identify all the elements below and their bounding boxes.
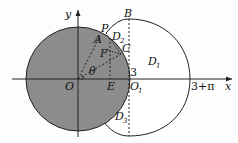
svg-text:2: 2 xyxy=(119,37,125,45)
y-axis-arrow-icon xyxy=(76,10,81,16)
origin-label: O xyxy=(65,80,74,93)
tick-label-3: 3 xyxy=(130,66,137,79)
point-label-b: B xyxy=(123,7,132,20)
svg-text:1: 1 xyxy=(138,87,142,95)
y-axis-label: y xyxy=(64,8,72,21)
point-label-e: E xyxy=(106,80,115,93)
point-label-f: F xyxy=(99,47,108,60)
svg-text:3: 3 xyxy=(123,117,128,125)
x-axis-label: x xyxy=(225,80,232,93)
geometry-figure: y x O B P A C F E O 1 D 2 D 1 D 3 θ 3 3+… xyxy=(0,0,238,143)
svg-text:1: 1 xyxy=(156,62,160,70)
figure-canvas: y x O B P A C F E O 1 D 2 D 1 D 3 θ 3 3+… xyxy=(0,0,238,143)
tick-label-3-plus-pi: 3+π xyxy=(191,80,214,93)
angle-label-theta: θ xyxy=(89,65,96,78)
point-label-a: A xyxy=(93,33,102,46)
